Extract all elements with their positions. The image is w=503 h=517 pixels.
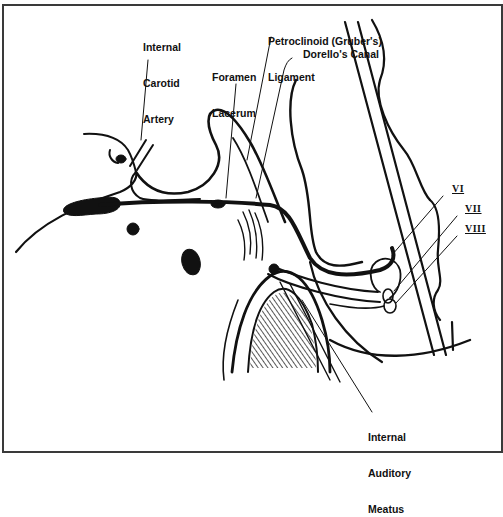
label-line: Petroclinoid (Gruber's) (268, 35, 382, 47)
abducens-nerve (100, 202, 394, 275)
label-line: Meatus (368, 503, 411, 515)
label-line: Foramen (212, 71, 256, 83)
label-cranial-nerve-vii: VII (465, 203, 482, 214)
label-internal-carotid-artery: Internal Carotid Artery (143, 17, 181, 137)
label-cranial-nerve-vi: VI (452, 183, 464, 194)
label-line: Ligament (268, 71, 382, 83)
posterior-fossa-floor (330, 340, 470, 356)
label-line: Artery (143, 113, 181, 125)
label-cranial-nerve-viii: VIII (465, 223, 486, 234)
label-dorellos-canal: Dorello's Canal (303, 48, 379, 60)
label-foramen-lacerum: Foramen Lacerum (212, 47, 256, 131)
label-internal-auditory-meatus: Internal Auditory Meatus (368, 407, 411, 517)
label-line: Lacerum (212, 107, 256, 119)
vestibulocochlear-nerve (384, 299, 396, 313)
venous-sinus (63, 197, 120, 215)
label-line: Internal (143, 41, 181, 53)
label-line: Internal (368, 431, 411, 443)
label-line: Carotid (143, 77, 181, 89)
label-line: Auditory (368, 467, 411, 479)
